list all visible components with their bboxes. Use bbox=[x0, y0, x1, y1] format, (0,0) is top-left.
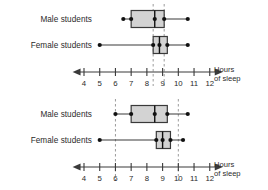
data-point-marker-2 bbox=[161, 138, 165, 142]
axis-tick-label-6: 6 bbox=[113, 79, 117, 88]
axis-tick-label-4: 4 bbox=[82, 79, 87, 88]
data-point-marker-3 bbox=[165, 43, 169, 47]
box-plot-series-0 bbox=[121, 11, 190, 28]
axis-caption-line2-bottom: of sleep bbox=[214, 170, 241, 179]
axis-tick-label-12: 12 bbox=[205, 79, 214, 88]
axis-tick-label-11: 11 bbox=[190, 174, 198, 183]
data-point-marker-1 bbox=[129, 17, 133, 21]
data-point-marker-4 bbox=[186, 43, 190, 47]
axis-tick-label-12: 12 bbox=[205, 174, 214, 183]
data-point-marker-3 bbox=[162, 17, 166, 21]
box-plot-chart-bottom: Male students Female students 4567891011… bbox=[0, 95, 268, 190]
axis-caption-bottom: Hours of sleep bbox=[214, 161, 241, 178]
axis-tick-label-6: 6 bbox=[113, 174, 117, 183]
box-rect bbox=[131, 106, 167, 123]
axis-tick-label-9: 9 bbox=[160, 79, 164, 88]
data-point-marker-1 bbox=[154, 138, 158, 142]
data-point-marker-2 bbox=[157, 43, 161, 47]
data-point-marker-0 bbox=[121, 17, 125, 21]
data-point-marker-3 bbox=[168, 138, 172, 142]
data-point-marker-1 bbox=[129, 112, 133, 116]
box-plot-series-1 bbox=[98, 37, 190, 54]
axis-arrow-left-icon bbox=[73, 69, 81, 76]
data-point-marker-0 bbox=[113, 112, 117, 116]
axis-arrow-left-icon bbox=[73, 164, 81, 171]
axis-tick-label-10: 10 bbox=[174, 79, 183, 88]
axis-tick-label-8: 8 bbox=[145, 174, 149, 183]
axis-tick-label-5: 5 bbox=[98, 79, 103, 88]
data-point-marker-3 bbox=[165, 112, 169, 116]
box-plot-series-1 bbox=[98, 132, 186, 149]
axis-tick-label-4: 4 bbox=[82, 174, 87, 183]
data-point-marker-4 bbox=[181, 138, 185, 142]
axis-caption-line2-top: of sleep bbox=[214, 75, 241, 84]
data-point-marker-2 bbox=[153, 112, 157, 116]
data-point-marker-1 bbox=[151, 43, 155, 47]
data-point-marker-4 bbox=[186, 17, 190, 21]
data-point-marker-2 bbox=[153, 17, 157, 21]
axis-tick-label-10: 10 bbox=[174, 174, 183, 183]
axis-tick-label-5: 5 bbox=[98, 174, 103, 183]
box-rect bbox=[131, 11, 164, 28]
axis-tick-label-7: 7 bbox=[129, 174, 133, 183]
data-point-marker-0 bbox=[98, 43, 102, 47]
data-point-marker-0 bbox=[98, 138, 102, 142]
axis-tick-label-8: 8 bbox=[145, 79, 149, 88]
box-plot-chart-top: Male students Female students 4567891011… bbox=[0, 0, 268, 95]
axis-tick-label-11: 11 bbox=[190, 79, 198, 88]
data-point-marker-4 bbox=[186, 112, 190, 116]
axis-caption-top: Hours of sleep bbox=[214, 66, 241, 83]
axis-tick-label-7: 7 bbox=[129, 79, 133, 88]
axis-tick-label-9: 9 bbox=[160, 174, 164, 183]
